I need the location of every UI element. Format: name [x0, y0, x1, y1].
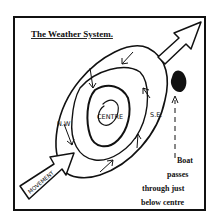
- boat-note-line: passes: [167, 170, 188, 179]
- exit-arrow-icon: [158, 22, 201, 64]
- boat-note-line: Boat: [177, 156, 193, 165]
- boat-path-icon: [172, 96, 178, 158]
- boat-note-line: below centre: [141, 198, 185, 207]
- nw-label: N.W: [57, 120, 71, 128]
- centre-label: CENTRE: [97, 113, 123, 121]
- arrow-icon: [122, 52, 133, 64]
- boat-icon: [171, 70, 187, 92]
- arrow-icon: [143, 88, 150, 98]
- movement-arrow-icon: MOVEMENT: [20, 153, 74, 199]
- weather-system-diagram: The Weather System. CENTRE N.W S.E. MOVE…: [0, 0, 216, 221]
- boat-note: Boat passes through just below centre: [141, 156, 193, 207]
- se-label: S.E.: [150, 111, 162, 119]
- boat-note-line: through just: [142, 184, 185, 193]
- diagram-title: The Weather System.: [31, 29, 113, 39]
